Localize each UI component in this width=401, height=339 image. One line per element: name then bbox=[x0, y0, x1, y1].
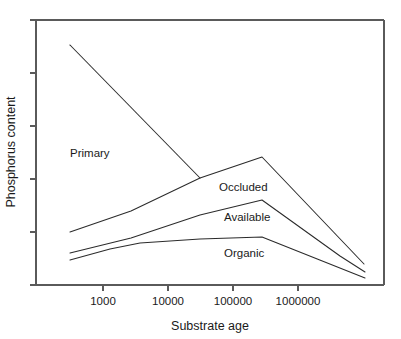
x-tick-label-1000: 1000 bbox=[90, 295, 116, 307]
x-tick-label-100000: 100000 bbox=[214, 295, 252, 307]
series-label-occluded: Occluded bbox=[219, 181, 268, 193]
series-label-organic: Organic bbox=[224, 247, 265, 259]
x-tick-label-1000000: 1000000 bbox=[276, 295, 321, 307]
phosphorus-substrate-age-line-chart: 1000 10000 100000 1000000 Substrate age … bbox=[0, 0, 401, 339]
x-tick-label-10000: 10000 bbox=[152, 295, 184, 307]
y-axis-title: Phosphorus content bbox=[4, 96, 18, 208]
series-label-available: Available bbox=[224, 211, 270, 223]
series-label-primary: Primary bbox=[70, 147, 110, 159]
figure-background bbox=[0, 0, 401, 339]
chart-figure: 1000 10000 100000 1000000 Substrate age … bbox=[0, 0, 401, 339]
x-axis-title: Substrate age bbox=[171, 319, 249, 333]
